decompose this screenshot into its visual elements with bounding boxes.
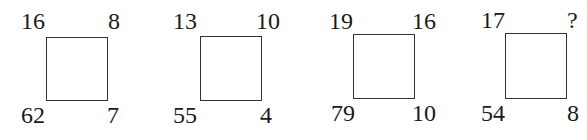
square (200, 36, 262, 101)
puzzle-4: 17 ? 54 8 (0, 0, 120, 140)
bottom-right-number: 4 (260, 103, 272, 127)
square (505, 33, 567, 99)
bottom-right-number: 10 (412, 101, 436, 125)
top-right-number: 16 (412, 9, 436, 33)
top-right-number: 10 (256, 9, 280, 33)
top-right-number: ? (567, 8, 578, 32)
bottom-left-number: 79 (331, 101, 355, 125)
bottom-right-number: 8 (567, 101, 579, 125)
bottom-left-number: 54 (481, 101, 505, 125)
top-left-number: 13 (173, 9, 197, 33)
top-left-number: 17 (481, 8, 505, 32)
square (353, 34, 415, 99)
bottom-left-number: 55 (173, 103, 197, 127)
top-left-number: 19 (329, 9, 353, 33)
